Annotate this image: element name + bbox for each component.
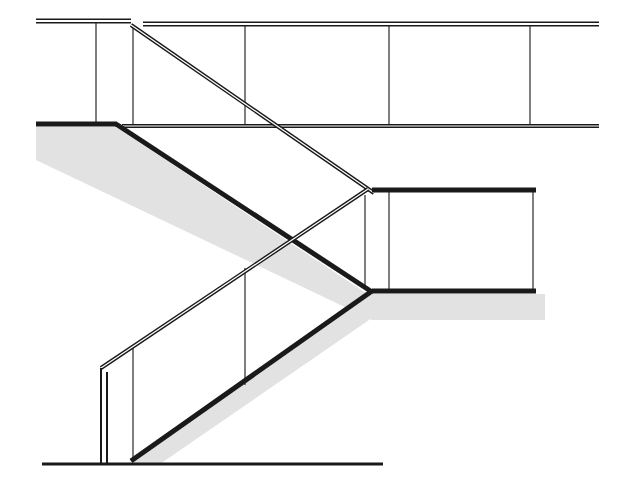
staircase-section-drawing [0, 0, 623, 493]
lower-landing-shadow [372, 294, 545, 320]
drawing-canvas [0, 0, 623, 493]
